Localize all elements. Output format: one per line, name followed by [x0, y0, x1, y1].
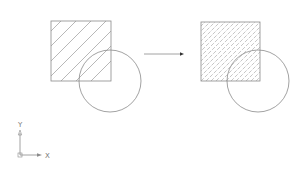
transition-arrow-icon — [144, 52, 184, 55]
before-figure — [1, 21, 151, 112]
after-figure — [141, 22, 298, 112]
y-axis-label: Y — [17, 121, 23, 129]
wide-hatch-pattern — [1, 21, 151, 81]
ucs-axis-icon: Y X — [17, 121, 50, 160]
dense-hatch-pattern — [141, 22, 298, 81]
x-axis-label: X — [45, 152, 50, 160]
diagram-canvas: Y X — [0, 0, 298, 173]
